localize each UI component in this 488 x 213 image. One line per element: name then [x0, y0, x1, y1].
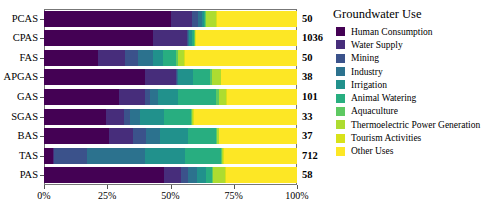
y-tick-label: BAS [18, 131, 38, 141]
bar-segment [87, 148, 145, 164]
legend-item-label: Tourism Activities [351, 133, 421, 143]
bar-segment [206, 11, 216, 27]
legend-item[interactable]: Animal Watering [333, 91, 485, 104]
legend-swatch-icon [336, 107, 345, 116]
bar-segment [44, 148, 53, 164]
bar-row [44, 50, 297, 66]
y-tick-label: FAS [20, 53, 38, 63]
legend-item-label: Animal Watering [351, 93, 416, 103]
bar-segment [44, 109, 106, 125]
bar-segment [140, 109, 164, 125]
bar-segment [150, 89, 158, 105]
bar-row [44, 69, 297, 85]
plot-area [44, 9, 297, 185]
x-tick-label: 50% [161, 191, 179, 201]
bar-value-label: 58 [302, 170, 313, 180]
bar-segment [178, 69, 193, 85]
y-tick-mark [40, 38, 44, 39]
y-tick-label: PCAS [12, 14, 38, 24]
bar-segment [138, 50, 153, 66]
bar-segment [44, 50, 98, 66]
legend-item[interactable]: Industry [333, 65, 485, 78]
y-axis: PCASCPASFASAPGASGASSGASBASTASPAS [0, 9, 38, 185]
y-tick-mark [40, 136, 44, 137]
y-tick-label: APGAS [4, 72, 38, 82]
legend-item[interactable]: Aquaculture [333, 105, 485, 118]
y-tick-label: PAS [20, 170, 38, 180]
bar-segment [44, 89, 119, 105]
x-tick-label: 0% [37, 191, 50, 201]
bar-segment [193, 69, 211, 85]
legend-item[interactable]: Thermoelectric Power Generation [333, 118, 485, 131]
y-tick-mark [40, 77, 44, 78]
legend-swatch-icon [336, 120, 345, 129]
legend-items: Human ConsumptionWater SupplyMiningIndus… [333, 25, 485, 158]
legend-item-label: Aquaculture [351, 106, 398, 116]
legend-item[interactable]: Water Supply [333, 38, 485, 51]
bar-segment [178, 89, 216, 105]
y-tick-label: CPAS [13, 33, 38, 43]
legend-item[interactable]: Human Consumption [333, 25, 485, 38]
bar-row [44, 11, 297, 27]
bar-segment [217, 11, 297, 27]
x-tick-label: 75% [225, 191, 243, 201]
bar-segment [188, 167, 197, 183]
bar-segment [125, 50, 138, 66]
bar-segment [153, 30, 187, 46]
bar-segment [171, 11, 193, 27]
bar-segment [44, 30, 153, 46]
legend-swatch-icon [336, 147, 345, 156]
bar-value-label: 33 [302, 112, 313, 122]
bar-segment [145, 148, 184, 164]
bar-value-label: 50 [302, 53, 313, 63]
y-tick-mark [40, 19, 44, 20]
legend-swatch-icon [336, 40, 345, 49]
bar-value-label: 101 [302, 92, 318, 102]
x-tick-mark [171, 185, 172, 189]
y-tick-mark [40, 175, 44, 176]
bar-segment [130, 109, 140, 125]
bar-row [44, 167, 297, 183]
legend-title: Groundwater Use [333, 8, 485, 21]
bar-segment [145, 69, 175, 85]
y-tick-mark [40, 58, 44, 59]
y-tick-label: GAS [17, 92, 38, 102]
bar-row [44, 148, 297, 164]
x-tick-mark [107, 185, 108, 189]
bar-segment [54, 148, 87, 164]
bar-value-label: 37 [302, 131, 313, 141]
legend-item[interactable]: Irrigation [333, 78, 485, 91]
bar-segment [153, 50, 163, 66]
bar-segment [219, 128, 297, 144]
legend-swatch-icon [336, 80, 345, 89]
bar-segment [181, 167, 189, 183]
x-tick-label: 25% [98, 191, 116, 201]
y-tick-label: SGAS [11, 112, 38, 122]
bar-segment [196, 30, 297, 46]
bar-segment [164, 167, 180, 183]
bar-segment [212, 69, 221, 85]
legend-item[interactable]: Mining [333, 52, 485, 65]
x-tick-mark [44, 185, 45, 189]
bar-segment [221, 69, 297, 85]
legend-swatch-icon [336, 54, 345, 63]
bar-segment [227, 89, 297, 105]
bar-segment [158, 89, 178, 105]
legend-item-label: Human Consumption [351, 27, 433, 37]
legend-item-label: Industry [351, 67, 383, 77]
legend-item-label: Mining [351, 53, 379, 63]
bar-segment [160, 128, 188, 144]
legend-swatch-icon [336, 67, 345, 76]
stacked-bar-chart-figure: PCASCPASFASAPGASGASSGASBASTASPAS Groundw… [0, 0, 488, 213]
bar-segment [119, 89, 146, 105]
legend-item[interactable]: Other Uses [333, 145, 485, 158]
bar-row [44, 30, 297, 46]
bar-segment [194, 109, 297, 125]
bar-segment [146, 128, 160, 144]
legend-item[interactable]: Tourism Activities [333, 131, 485, 144]
bar-value-label: 712 [302, 151, 318, 161]
y-tick-mark [40, 117, 44, 118]
bar-segment [219, 89, 227, 105]
bar-segment [98, 50, 125, 66]
legend-swatch-icon [336, 27, 345, 36]
